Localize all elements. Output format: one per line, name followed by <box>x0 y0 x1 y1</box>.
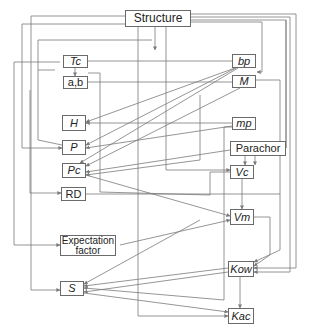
node-kow: Kow <box>228 261 254 277</box>
node-pc: Pc <box>62 163 86 178</box>
node-m-label: M <box>239 76 248 87</box>
connector-lines <box>0 0 313 331</box>
node-pc-label: Pc <box>68 165 81 176</box>
node-mp-label: mp <box>236 118 251 129</box>
node-s: S <box>60 281 84 296</box>
node-p: P <box>62 140 86 155</box>
node-parachor-label: Parachor <box>236 143 281 154</box>
node-structure: Structure <box>125 10 191 27</box>
node-bp: bp <box>232 54 256 68</box>
node-rd: RD <box>61 187 86 201</box>
node-vc: Vc <box>230 165 254 179</box>
node-structure-label: Structure <box>134 13 183 24</box>
node-expectation-factor-label: Expectation factor <box>61 236 115 256</box>
dependency-diagram: Structure Tc a,b bp M H mp P Parachor Pc… <box>0 0 313 331</box>
node-ab-label: a,b <box>68 77 83 88</box>
node-rd-label: RD <box>66 189 82 200</box>
node-s-label: S <box>68 283 75 294</box>
node-ab: a,b <box>63 76 88 89</box>
node-kac-label: Kac <box>232 311 251 322</box>
node-vm-label: Vm <box>234 212 251 223</box>
node-vc-label: Vc <box>236 167 249 178</box>
node-kow-label: Kow <box>230 264 251 275</box>
node-mp: mp <box>232 117 256 130</box>
node-m: M <box>232 75 256 88</box>
node-tc-label: Tc <box>70 56 81 67</box>
node-parachor: Parachor <box>230 141 286 156</box>
node-p-label: P <box>70 142 77 153</box>
node-h: H <box>62 115 86 131</box>
node-vm: Vm <box>230 209 254 225</box>
node-bp-label: bp <box>238 56 250 67</box>
node-tc: Tc <box>63 55 88 68</box>
node-expectation-factor: Expectation factor <box>60 235 116 256</box>
node-h-label: H <box>70 118 78 129</box>
node-kac: Kac <box>228 308 254 324</box>
